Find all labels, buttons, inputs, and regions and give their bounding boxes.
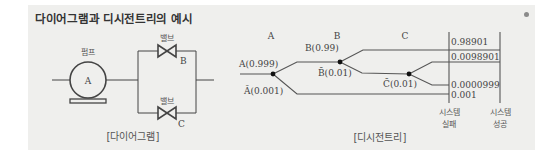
system-fail-label-1: 시스템 xyxy=(439,107,460,117)
valve-b-icon xyxy=(158,45,176,57)
outcome-1: 0.98901 xyxy=(451,37,488,47)
valve-c-label: 밸브 xyxy=(160,96,174,106)
valve-c-letter: C xyxy=(178,119,185,129)
column-b-label: B xyxy=(334,31,341,41)
branch-c-fail: C̄(0.01) xyxy=(383,78,417,89)
valve-c-icon xyxy=(158,107,176,119)
outcome-3: 0.0000999 xyxy=(451,80,500,90)
system-diagram xyxy=(52,45,214,119)
diagram-caption: [다이어그램] xyxy=(107,131,160,142)
node-a xyxy=(271,72,276,77)
outcome-4: 0.001 xyxy=(451,90,477,100)
tree-caption: [디시전트리] xyxy=(354,132,407,143)
system-success-label-2: 성공 xyxy=(493,120,507,129)
column-c-label: C xyxy=(402,31,409,41)
valve-b-letter: B xyxy=(180,56,187,66)
column-a-label: A xyxy=(267,31,275,41)
branch-b-fail: B̄(0.01) xyxy=(318,67,352,78)
branch-b-success: B(0.99) xyxy=(305,43,339,53)
branch-a-fail: Ā(0.001) xyxy=(243,85,283,96)
pump-letter: A xyxy=(84,76,92,86)
system-fail-label-2: 실패 xyxy=(442,119,456,129)
valve-b-label: 밸브 xyxy=(160,33,174,43)
system-success-label-1: 시스템 xyxy=(490,107,511,117)
node-b xyxy=(338,60,343,65)
branch-a-success: A(0.999) xyxy=(238,59,278,69)
pump-label: 펌프 xyxy=(81,47,95,57)
figure-drawing: 펌프 A 밸브 B 밸브 C [다이어그램] A B C A(0.999) Ā(… xyxy=(0,0,559,160)
pump-base xyxy=(70,99,106,103)
node-c xyxy=(407,72,412,77)
outcome-2: 0.0098901 xyxy=(451,52,500,62)
